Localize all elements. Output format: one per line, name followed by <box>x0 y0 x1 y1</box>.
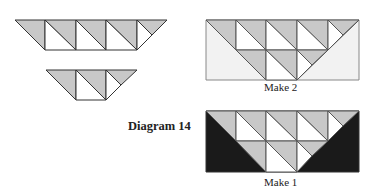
strip-small <box>46 70 137 100</box>
make-2-label: Make 2 <box>264 81 297 93</box>
make-2-block <box>206 20 359 80</box>
make-1-label: Make 1 <box>264 176 297 188</box>
diagram-title: Diagram 14 <box>128 119 191 134</box>
make-1-block <box>206 111 359 172</box>
strip-large <box>15 20 167 50</box>
diagram-canvas <box>0 0 371 192</box>
